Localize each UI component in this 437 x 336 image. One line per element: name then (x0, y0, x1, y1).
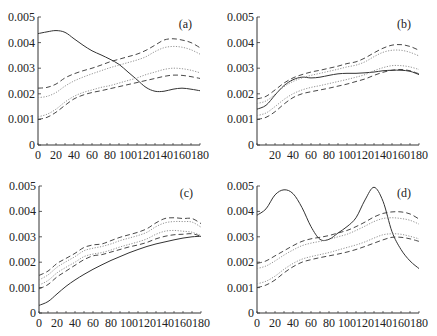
y-tick-label: 0.004 (9, 204, 36, 218)
y-tick-label: 0.005 (227, 179, 254, 193)
series-lower-inner-band (257, 234, 419, 284)
panel-label: (c) (180, 186, 193, 200)
series-upper-outer-band (38, 39, 200, 88)
x-tick-label: 100 (119, 148, 137, 162)
y-tick-label: 0.001 (8, 112, 35, 126)
x-tick-label: 120 (356, 316, 374, 330)
x-tick-label: 160 (174, 316, 192, 330)
x-tick-label: 0 (254, 316, 260, 330)
x-tick-label: 40 (287, 316, 299, 330)
series-lower-outer-band (39, 234, 201, 289)
y-tick-label: 0.004 (8, 36, 35, 50)
series-estimate (38, 31, 200, 92)
y-tick-label: 0.002 (8, 87, 35, 101)
y-tick-label: 0.002 (227, 87, 254, 101)
series-lower-outer-band (257, 237, 419, 288)
figure: 00.0010.0020.0030.0040.00502040608010012… (0, 0, 437, 336)
y-tick-label: 0 (248, 138, 254, 152)
series-lower-inner-band (39, 230, 201, 285)
x-tick-label: 160 (392, 148, 410, 162)
x-tick-label: 120 (137, 148, 155, 162)
x-tick-label: 20 (50, 148, 62, 162)
y-tick-label: 0.003 (8, 61, 35, 75)
x-tick-label: 140 (155, 148, 173, 162)
y-tick-label: 0.002 (227, 255, 254, 269)
panel-label: (b) (397, 17, 411, 31)
series-lower-outer-band (257, 69, 419, 119)
x-tick-label: 140 (374, 148, 392, 162)
x-tick-label: 180 (410, 148, 428, 162)
panel-d: 00.0010.0020.0030.0040.00502040608010012… (227, 179, 428, 330)
x-tick-label: 60 (86, 148, 98, 162)
x-tick-label: 140 (374, 316, 392, 330)
series-estimate (39, 236, 201, 305)
series-upper-inner-band (38, 46, 200, 97)
x-tick-label: 100 (120, 316, 138, 330)
x-tick-label: 20 (51, 316, 63, 330)
x-tick-label: 140 (156, 316, 174, 330)
panel-label: (a) (179, 17, 192, 31)
x-tick-label: 80 (323, 148, 335, 162)
series-upper-inner-band (257, 50, 419, 104)
chart-grid: 00.0010.0020.0030.0040.00502040608010012… (0, 0, 437, 336)
y-tick-label: 0.003 (9, 230, 36, 244)
series-upper-outer-band (39, 218, 201, 276)
y-tick-label: 0.003 (227, 61, 254, 75)
x-tick-label: 0 (36, 316, 42, 330)
y-tick-label: 0.005 (9, 179, 36, 193)
x-tick-label: 40 (287, 148, 299, 162)
y-tick-label: 0.004 (227, 204, 254, 218)
x-tick-label: 180 (191, 148, 209, 162)
x-tick-label: 80 (323, 316, 335, 330)
x-tick-label: 60 (305, 316, 317, 330)
x-tick-label: 20 (269, 316, 281, 330)
x-tick-label: 160 (173, 148, 191, 162)
x-tick-label: 60 (305, 148, 317, 162)
series-upper-outer-band (257, 45, 419, 99)
series-lower-outer-band (38, 75, 200, 119)
y-tick-label: 0.004 (227, 36, 254, 50)
y-tick-label: 0.005 (227, 10, 254, 24)
x-tick-label: 40 (68, 148, 80, 162)
x-tick-label: 160 (392, 316, 410, 330)
y-tick-label: 0.001 (9, 281, 36, 295)
y-tick-label: 0.002 (9, 255, 36, 269)
panel-label: (d) (397, 186, 411, 200)
panel-a: 00.0010.0020.0030.0040.00502040608010012… (8, 10, 209, 162)
x-tick-label: 120 (356, 148, 374, 162)
x-tick-label: 80 (104, 148, 116, 162)
x-tick-label: 80 (105, 316, 117, 330)
x-tick-label: 180 (192, 316, 210, 330)
x-tick-label: 60 (87, 316, 99, 330)
panel-b: 00.0010.0020.0030.0040.00520406080100120… (227, 10, 428, 162)
x-tick-label: 100 (338, 148, 356, 162)
panel-c: 00.0010.0020.0030.0040.00502040608010012… (9, 179, 210, 330)
x-tick-label: 100 (338, 316, 356, 330)
x-tick-label: 0 (35, 148, 41, 162)
x-tick-label: 120 (138, 316, 156, 330)
y-tick-label: 0.001 (227, 281, 254, 295)
x-tick-label: 20 (269, 148, 281, 162)
y-tick-label: 0.003 (227, 230, 254, 244)
series-estimate (257, 70, 419, 109)
x-tick-label: 40 (69, 316, 81, 330)
x-tick-label: 180 (410, 316, 428, 330)
y-tick-label: 0.001 (227, 112, 254, 126)
series-upper-inner-band (257, 218, 419, 269)
series-lower-inner-band (257, 65, 419, 115)
y-tick-label: 0.005 (8, 10, 35, 24)
series-upper-inner-band (39, 221, 201, 280)
